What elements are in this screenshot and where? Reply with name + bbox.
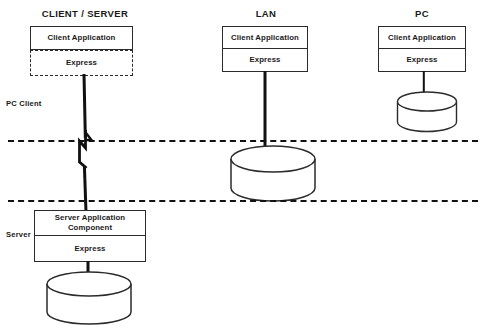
server-application-component-box: Server Application Component <box>34 210 146 236</box>
server-express-middleware-box: Express <box>34 236 146 262</box>
lan-client-application-box: Client Application <box>222 26 308 49</box>
lan-database-cylinder <box>229 146 317 202</box>
architecture-diagram: CLIENT / SERVER LAN PC PC Client Server … <box>0 0 484 333</box>
pc-database-cylinder <box>396 92 458 134</box>
zone-label-pc-client: PC Client <box>6 99 42 108</box>
column-title-pc: PC <box>415 8 429 19</box>
server-database-cylinder <box>45 272 133 326</box>
column-title-client-server: CLIENT / SERVER <box>42 8 128 19</box>
client-server-client-node: Client Application Express <box>30 26 133 78</box>
pc-express-middleware-box: Express <box>378 49 466 72</box>
client-application-box: Client Application <box>30 26 133 50</box>
pc-client-application-box: Client Application <box>378 26 466 49</box>
lan-database-connector <box>264 71 267 149</box>
express-middleware-box: Express <box>30 50 133 76</box>
server-node: Server Application Component Express <box>34 210 146 262</box>
pc-client-node: Client Application Express <box>378 26 466 72</box>
lan-express-middleware-box: Express <box>222 49 308 72</box>
client-server-lower-connector <box>83 166 88 212</box>
lower-boundary-line <box>8 200 478 202</box>
upper-boundary-line <box>8 140 478 142</box>
zone-label-server: Server <box>6 230 31 239</box>
lan-client-node: Client Application Express <box>222 26 308 72</box>
network-break-icon <box>74 128 102 170</box>
column-title-lan: LAN <box>256 8 277 19</box>
